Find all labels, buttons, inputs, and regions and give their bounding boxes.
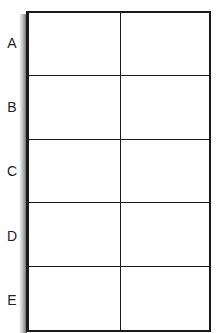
cell-c-2 [121, 140, 209, 203]
grid-table [26, 11, 211, 332]
row-label-d: D [0, 204, 22, 268]
row-label-b: B [0, 75, 22, 139]
row-label-e: E [0, 268, 22, 332]
cell-d-1 [29, 203, 121, 266]
cell-e-1 [29, 267, 121, 330]
cell-c-1 [29, 140, 121, 203]
cell-b-1 [29, 76, 121, 139]
row-label-a: A [0, 11, 22, 75]
cell-d-2 [121, 203, 209, 266]
cell-b-2 [121, 76, 209, 139]
cell-e-2 [121, 267, 209, 330]
cell-a-2 [121, 13, 209, 76]
row-labels: A B C D E [0, 11, 22, 332]
row-label-c: C [0, 139, 22, 203]
cell-a-1 [29, 13, 121, 76]
